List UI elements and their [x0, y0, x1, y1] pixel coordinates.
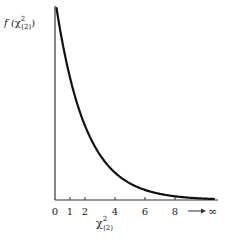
- infinity-arrow: ∞: [188, 205, 217, 218]
- y-axis-label: f (χ2(2)): [3, 15, 35, 31]
- x-tick-label: 6: [142, 206, 148, 217]
- x-tick-label: 4: [112, 206, 118, 217]
- chi-square-density-chart: 012468 ∞ f (χ2(2)) χ2(2): [0, 0, 228, 241]
- x-tick-label: 8: [172, 206, 178, 217]
- x-tick-label: 0: [52, 206, 58, 217]
- density-curve: [57, 8, 215, 199]
- infinity-label: ∞: [208, 205, 217, 218]
- x-tick-label: 2: [82, 206, 88, 217]
- x-tick-label: 1: [67, 206, 73, 217]
- x-axis-label: χ2(2): [96, 215, 113, 232]
